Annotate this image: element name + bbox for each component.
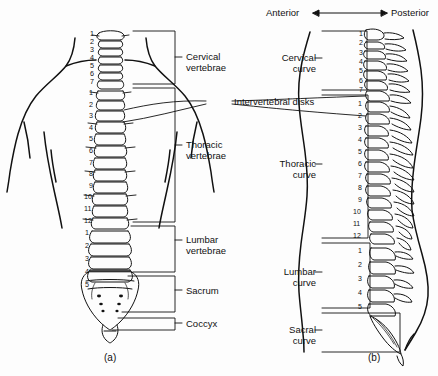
label-lumbar-curve: Lumbar curve <box>258 266 316 288</box>
orientation-arrow <box>313 10 387 16</box>
vertebra-number: 10 <box>353 208 361 215</box>
vertebra-number: 5 <box>358 148 362 155</box>
vertebra-number: 5 <box>85 281 89 288</box>
vertebra-number: 7 <box>89 159 93 166</box>
vertebra-number: 1 <box>89 89 93 96</box>
label-thoracic-curve: Thoracic curve <box>258 158 316 180</box>
vertebra-number: 2 <box>359 39 363 46</box>
panel-a-id: (a) <box>104 352 116 363</box>
vertebra-number: 2 <box>358 261 362 268</box>
vertebra-number: 3 <box>85 255 89 262</box>
vertebra-number: 7 <box>359 86 363 93</box>
vertebra-number: 2 <box>85 242 89 249</box>
coccyx-bone <box>102 325 118 343</box>
vertebra-number: 8 <box>358 184 362 191</box>
vertebra-number: 12 <box>353 232 361 239</box>
vertebra-number: 2 <box>89 101 93 108</box>
vertebra-number: 6 <box>358 160 362 167</box>
label-intervertebral-disks: Intervertebral disks <box>234 96 314 107</box>
vertebra-number: 7 <box>358 172 362 179</box>
label-cervical-curve: Cervical curve <box>258 52 316 74</box>
thoracic-vertebrae-b <box>365 102 414 250</box>
lumbar-vertebrae-b <box>368 248 414 316</box>
vertebra-number: 2 <box>358 112 362 119</box>
vertebra-number: 9 <box>358 196 362 203</box>
vertebra-number: 7 <box>90 78 94 85</box>
vertebra-number: 9 <box>89 182 93 189</box>
lumbar-vertebrae-a <box>88 231 133 282</box>
panel-b-id: (b) <box>368 352 380 363</box>
label-posterior: Posterior <box>391 7 429 18</box>
label-sacrum: Sacrum <box>186 285 219 296</box>
vertebra-number: 12 <box>84 217 92 224</box>
cervical-vertebrae-b <box>364 29 411 103</box>
vertebra-number: 4 <box>359 58 363 65</box>
vertebra-number: 11 <box>84 205 91 212</box>
label-coccyx: Coccyx <box>186 318 217 329</box>
vertebra-number: 5 <box>89 135 93 142</box>
cervical-vertebrae-a <box>97 31 124 89</box>
label-lumbar-vertebrae: Lumbar vertebrae <box>186 234 226 256</box>
vertebra-number: 4 <box>85 268 89 275</box>
spine-anatomy-figure: Cervical vertebrae Thoracic vertebrae Lu… <box>0 0 438 376</box>
vertebra-number: 3 <box>358 124 362 131</box>
vertebra-number: 4 <box>358 289 362 296</box>
vertebra-number: 6 <box>359 77 363 84</box>
vertebra-number: 1 <box>85 229 89 236</box>
vertebra-number: 6 <box>89 147 93 154</box>
vertebra-number: 4 <box>89 124 93 131</box>
vertebra-number: 8 <box>89 170 93 177</box>
vertebral-column-lateral <box>364 29 414 366</box>
vertebra-number: 3 <box>358 275 362 282</box>
vertebra-number: 5 <box>358 303 362 310</box>
thoracic-vertebrae-a <box>91 91 128 229</box>
sacrum-bone <box>81 272 139 330</box>
vertebra-number: 3 <box>359 49 363 56</box>
vertebra-number: 3 <box>89 112 93 119</box>
vertebra-number: 1 <box>359 30 363 37</box>
vertebra-number: 1 <box>358 100 362 107</box>
label-anterior: Anterior <box>266 7 299 18</box>
vertebra-number: 4 <box>358 136 362 143</box>
vertebra-number: 10 <box>84 193 92 200</box>
label-thoracic-vertebrae: Thoracic vertebrae <box>186 139 226 161</box>
label-sacral-curve: Sacral curve <box>258 324 316 346</box>
vertebra-number: 5 <box>359 67 363 74</box>
label-cervical-vertebrae: Cervical vertebrae <box>186 51 226 73</box>
vertebra-number: 11 <box>353 220 360 227</box>
vertebra-number: 1 <box>358 247 362 254</box>
